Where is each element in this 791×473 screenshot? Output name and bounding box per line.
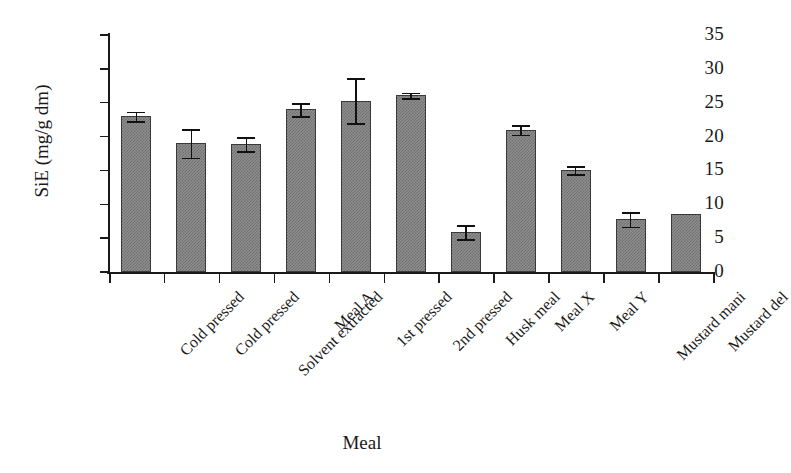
bar bbox=[341, 101, 371, 272]
y-axis-line bbox=[108, 33, 110, 274]
y-tick-mark bbox=[100, 204, 108, 206]
x-tick-mark bbox=[384, 274, 386, 283]
bar bbox=[286, 109, 316, 272]
error-bar-stem bbox=[355, 78, 357, 123]
error-bar-cap-lower bbox=[182, 158, 200, 160]
error-bar-cap-upper bbox=[567, 166, 585, 168]
bar bbox=[671, 214, 701, 272]
y-tick-mark bbox=[100, 34, 108, 36]
x-tick-mark bbox=[164, 274, 166, 283]
error-bar-stem bbox=[246, 137, 248, 151]
error-bar-cap-upper bbox=[182, 129, 200, 131]
error-bar-cap-upper bbox=[622, 212, 640, 214]
y-tick-mark bbox=[100, 68, 108, 70]
x-category-label: 1st pressed bbox=[393, 288, 456, 351]
error-bar-cap-lower bbox=[567, 174, 585, 176]
x-tick-mark bbox=[493, 274, 495, 283]
x-tick-mark bbox=[274, 274, 276, 283]
bar bbox=[396, 95, 426, 272]
y-tick-mark bbox=[100, 237, 108, 239]
error-bar-cap-lower bbox=[347, 123, 365, 125]
x-tick-mark bbox=[603, 274, 605, 283]
error-bar-cap-lower bbox=[127, 121, 145, 123]
x-category-label: Meal Y bbox=[606, 288, 653, 335]
error-bar-cap-upper bbox=[127, 112, 145, 114]
x-category-label: 2nd pressed bbox=[449, 288, 515, 354]
x-tick-mark bbox=[219, 274, 221, 283]
y-tick-mark bbox=[100, 271, 108, 273]
error-bar-cap-lower bbox=[457, 239, 475, 241]
y-tick-label: 35 bbox=[628, 24, 724, 43]
x-axis-line bbox=[107, 272, 715, 274]
error-bar-cap-lower bbox=[512, 135, 530, 137]
error-bar-stem bbox=[630, 212, 632, 227]
y-tick-mark bbox=[100, 170, 108, 172]
error-bar-cap-upper bbox=[292, 103, 310, 105]
error-bar-stem bbox=[300, 103, 302, 117]
y-tick-label: 30 bbox=[628, 58, 724, 77]
error-bar-cap-upper bbox=[402, 93, 420, 95]
error-bar-stem bbox=[191, 129, 193, 157]
error-bar-cap-lower bbox=[402, 98, 420, 100]
error-bar-cap-upper bbox=[512, 125, 530, 127]
y-tick-label: 10 bbox=[628, 193, 724, 212]
error-bar-cap-upper bbox=[347, 78, 365, 80]
x-tick-mark bbox=[658, 274, 660, 283]
error-bar-stem bbox=[465, 225, 467, 239]
bar bbox=[176, 143, 206, 272]
y-tick-label: 15 bbox=[628, 159, 724, 178]
bar bbox=[231, 144, 261, 272]
x-tick-mark bbox=[109, 274, 111, 283]
x-tick-mark bbox=[329, 274, 331, 283]
x-axis-title: Meal bbox=[0, 432, 724, 454]
x-tick-mark bbox=[548, 274, 550, 283]
x-tick-mark bbox=[438, 274, 440, 283]
y-tick-mark bbox=[100, 136, 108, 138]
error-bar-cap-lower bbox=[622, 227, 640, 229]
x-tick-mark bbox=[713, 274, 715, 283]
y-axis-title: SiE (mg/g dm) bbox=[31, 21, 53, 261]
error-bar-cap-lower bbox=[292, 116, 310, 118]
bar bbox=[506, 130, 536, 272]
y-tick-label: 20 bbox=[628, 126, 724, 145]
y-tick-mark bbox=[100, 102, 108, 104]
y-tick-label: 25 bbox=[628, 92, 724, 111]
error-bar-cap-lower bbox=[237, 151, 255, 153]
error-bar-cap-upper bbox=[457, 225, 475, 227]
bar bbox=[561, 170, 591, 272]
error-bar-cap-upper bbox=[237, 137, 255, 139]
bar bbox=[121, 116, 151, 272]
